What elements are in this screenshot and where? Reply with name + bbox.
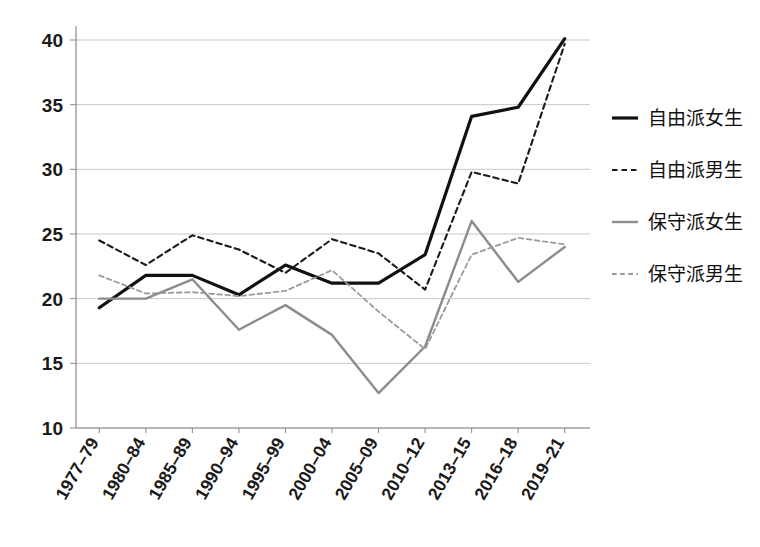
series-group	[99, 39, 564, 393]
x-axis-tick-label: 1977–79	[51, 434, 103, 503]
series-line-1	[99, 39, 564, 308]
x-axis-tick-label: 2010–12	[377, 434, 429, 503]
y-axis-tick-label: 25	[42, 224, 64, 245]
legend-item[interactable]: 自由派女生	[612, 107, 743, 129]
x-axis-tick-label: 1995–99	[238, 434, 290, 503]
y-axis-tick-label: 10	[42, 418, 63, 439]
axes-group	[76, 26, 590, 428]
y-axis-tick-label: 15	[42, 353, 64, 374]
x-axis-tick-label: 2000–04	[284, 434, 336, 503]
legend-item-label: 保守派男生	[648, 263, 743, 285]
x-axis-group: 1977–791980–841985–891990–941995–992000–…	[51, 428, 568, 503]
x-axis-tick-label: 1980–84	[98, 434, 150, 503]
legend-item[interactable]: 保守派女生	[612, 211, 743, 233]
x-axis-tick-label: 2013–15	[424, 434, 476, 503]
x-axis-tick-label: 2019–21	[517, 434, 569, 503]
gridlines-group: 10152025303540	[42, 30, 590, 439]
x-axis-tick-label: 1985–89	[144, 434, 196, 503]
legend-item-label: 保守派女生	[648, 211, 743, 233]
y-axis-tick-label: 30	[42, 159, 63, 180]
legend: 自由派女生自由派男生保守派女生保守派男生	[612, 107, 743, 285]
legend-item-label: 自由派男生	[648, 159, 743, 181]
x-axis-tick-label: 2016–18	[470, 434, 522, 503]
x-axis-tick-label: 2005–09	[331, 434, 383, 503]
series-line-4	[99, 238, 564, 349]
y-axis-tick-label: 40	[42, 30, 63, 51]
legend-item[interactable]: 保守派男生	[612, 263, 743, 285]
line-chart: 101520253035401977–791980–841985–891990–…	[0, 0, 760, 547]
y-axis-tick-label: 35	[42, 95, 64, 116]
chart-canvas: 101520253035401977–791980–841985–891990–…	[0, 0, 760, 547]
x-axis-tick-label: 1990–94	[191, 434, 243, 503]
y-axis-tick-label: 20	[42, 289, 63, 310]
series-line-3	[99, 221, 564, 393]
legend-item[interactable]: 自由派男生	[612, 159, 743, 181]
legend-item-label: 自由派女生	[648, 107, 743, 129]
